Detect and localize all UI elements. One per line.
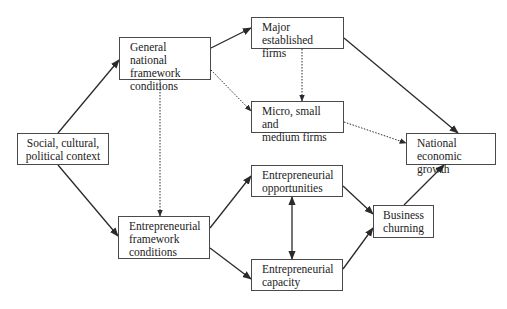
edge-general-to-major-arrow <box>211 28 251 48</box>
edge-social-to-general-arrow <box>58 60 119 133</box>
node-entrepreneurial-capacity: Entrepreneurial capacity <box>251 259 343 291</box>
edge-entr_framework-to-opportunities-arrow <box>210 176 251 228</box>
edge-major-to-national-arrow <box>344 38 458 133</box>
edge-entr_framework-to-capacity-arrow <box>210 248 251 279</box>
node-social-cultural-political-context: Social, cultural, political context <box>17 133 109 165</box>
node-national-economic-growth: National economic growth <box>406 133 496 165</box>
node-entrepreneurial-opportunities: Entrepreneurial opportunities <box>251 165 343 197</box>
diagram-canvas: Social, cultural, political context Gene… <box>0 0 507 309</box>
edge-social-to-entr_framework-arrow <box>58 165 118 236</box>
edge-opportunities-to-churning-arrow <box>343 186 373 214</box>
node-business-churning: Business churning <box>373 205 434 238</box>
node-micro-small-medium-firms: Micro, small and medium firms <box>251 101 344 133</box>
node-general-national-framework-conditions: General national framework conditions <box>119 37 211 80</box>
edge-general-to-micro-arrow <box>211 70 251 111</box>
node-major-established-firms: Major established firms <box>251 17 344 49</box>
edge-micro-to-national-arrow <box>344 122 406 143</box>
edge-capacity-to-churning-arrow <box>343 228 373 269</box>
node-entrepreneurial-framework-conditions: Entrepreneurial framework conditions <box>118 216 210 259</box>
